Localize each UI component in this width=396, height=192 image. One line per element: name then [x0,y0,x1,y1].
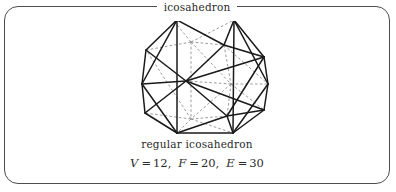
visible-edge [234,21,264,57]
edges-symbol: E [226,156,235,170]
faces-equals: = [187,156,201,170]
faces-value: 20 [201,156,216,170]
hidden-edge [146,50,191,119]
faces-separator: , [216,156,227,170]
edges-equals: = [236,156,250,170]
visible-edge [186,81,227,116]
visible-edge [233,21,234,133]
visible-edges-group [142,21,268,133]
hidden-edges-group [145,21,268,133]
visible-edge [227,116,233,133]
vertices-equals: = [139,156,153,170]
visible-edge [145,113,177,133]
caption-shape-name: regular icosahedron [5,137,389,152]
caption-formula: V=12,F=20,E=30 [5,155,389,171]
hidden-edge [173,21,191,42]
vertices-symbol: V [130,156,139,170]
visible-edge [233,110,264,133]
visible-edge [142,81,186,84]
vertices-value: 12 [153,156,168,170]
caption-block: regular icosahedron V=12,F=20,E=30 [5,137,389,171]
panel-legend: icosahedron [5,0,389,15]
faces-symbol: F [178,156,187,170]
visible-edge [146,21,177,50]
visible-edge [224,45,264,57]
vertices-separator: , [168,156,179,170]
visible-edge [142,21,177,84]
figure-panel: icosahedron [4,6,390,184]
icosahedron-diagram [5,21,389,135]
edges-value: 30 [249,156,264,170]
panel-legend-title: icosahedron [157,0,238,14]
visible-edge [186,81,264,110]
